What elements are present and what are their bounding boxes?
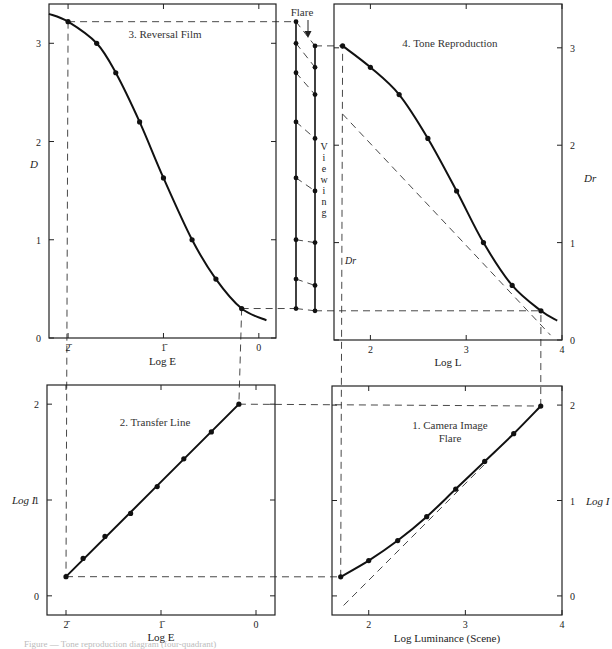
x-tick-label: 2 xyxy=(368,344,373,355)
viewing-letter: e xyxy=(322,163,327,174)
guide-logE-min xyxy=(66,22,68,577)
dr-inner-label: Dr xyxy=(344,255,356,266)
data-point xyxy=(482,459,487,464)
ladder-point-left xyxy=(294,41,299,46)
viewing-letter: V xyxy=(320,141,328,152)
y-tick-label: 2 xyxy=(570,140,575,151)
panel-transfer-line: 2̄1̄0012Log ELog I2. Transfer Line xyxy=(11,385,275,643)
data-point xyxy=(81,556,86,561)
y-axis-label: Log I xyxy=(11,494,37,506)
ladder-point-left xyxy=(294,277,299,282)
x-tick-label: 2 xyxy=(366,619,371,630)
guide-logL-min xyxy=(341,46,343,577)
ladder-rung xyxy=(296,240,315,243)
ladder-point-right xyxy=(313,308,318,313)
data-point xyxy=(161,175,166,180)
y-tick-label: 1 xyxy=(570,496,575,507)
data-point xyxy=(424,514,429,519)
panels: 2̄1̄00123Log ED3. Reversal Film2340123Lo… xyxy=(11,4,611,645)
data-point xyxy=(425,136,430,141)
x-tick-label: 2̄ xyxy=(66,342,73,353)
ladder-point-right xyxy=(313,240,318,245)
ladder-rung xyxy=(296,279,315,285)
data-point xyxy=(209,429,214,434)
ladder-point-right xyxy=(313,136,318,141)
ladder-point-left xyxy=(294,70,299,75)
ladder-point-left xyxy=(294,19,299,24)
y-tick-label: 1 xyxy=(36,235,41,246)
x-axis-label: Log L xyxy=(434,356,461,368)
viewing-letter: i xyxy=(323,185,326,196)
curve-line xyxy=(49,14,266,320)
data-point xyxy=(481,240,486,245)
data-point xyxy=(538,308,543,313)
data-point xyxy=(63,574,68,579)
ladder-point-left xyxy=(294,175,299,180)
panel-reversal-film: 2̄1̄00123Log ED3. Reversal Film xyxy=(29,4,276,367)
data-point xyxy=(102,534,107,539)
panel-frame xyxy=(334,4,562,340)
panel-title-line2: Flare xyxy=(439,432,462,444)
ladder-point-left xyxy=(294,306,299,311)
y-axis-label: D xyxy=(29,158,38,170)
data-point xyxy=(510,283,515,288)
panel-camera-image-flare: 234012Log Luminance (Scene)Log I1. Camer… xyxy=(332,386,611,645)
x-tick-label: 2̄ xyxy=(64,619,71,630)
panel-title: 1. Camera Image xyxy=(412,419,488,431)
y-axis-label: Log I xyxy=(585,495,611,507)
data-point xyxy=(155,484,160,489)
data-point xyxy=(239,306,244,311)
ladder-point-right xyxy=(313,283,318,288)
curve-line xyxy=(343,46,558,321)
data-point xyxy=(454,188,459,193)
ladder-point-right xyxy=(313,92,318,97)
data-point xyxy=(340,43,345,48)
ladder-rung xyxy=(296,43,315,67)
data-point xyxy=(137,119,142,124)
ladder-rung xyxy=(296,122,315,139)
x-tick-label: 1̄ xyxy=(161,342,168,353)
y-tick-label: 0 xyxy=(36,333,41,344)
data-point xyxy=(338,574,343,579)
data-point xyxy=(397,92,402,97)
data-point xyxy=(213,276,218,281)
guide-logE-max xyxy=(239,309,242,405)
figure-caption: Figure — Tone reproduction diagram (four… xyxy=(24,639,216,649)
data-point xyxy=(453,486,458,491)
data-point xyxy=(236,402,241,407)
y-axis-label: Dr xyxy=(583,172,597,184)
projection-guides xyxy=(66,22,541,577)
x-tick-label: 3 xyxy=(463,619,468,630)
ladder-point-right xyxy=(313,189,318,194)
data-point xyxy=(538,403,543,408)
x-tick-label: 4 xyxy=(560,344,565,355)
ladder-point-left xyxy=(294,119,299,124)
data-point xyxy=(113,70,118,75)
viewing-flare-ladder xyxy=(294,19,318,313)
tone-reproduction-diagram: 2̄1̄00123Log ED3. Reversal Film2340123Lo… xyxy=(0,0,612,649)
ladder-rung xyxy=(296,178,315,191)
viewing-letter: i xyxy=(323,152,326,163)
reference-line xyxy=(344,464,485,605)
y-tick-label: 2 xyxy=(36,137,41,148)
viewing-letter: w xyxy=(320,174,328,185)
x-tick-label: 1̄ xyxy=(159,619,166,630)
panel-title: 4. Tone Reproduction xyxy=(402,37,498,49)
reference-line xyxy=(343,114,551,335)
y-tick-label: 0 xyxy=(34,591,39,602)
x-tick-label: 0 xyxy=(256,342,261,353)
flare-label: Flare xyxy=(291,6,314,18)
ladder-point-right xyxy=(313,43,318,48)
panel-title: 2. Transfer Line xyxy=(120,416,191,428)
panel-tone-reproduction: 2340123Log LDr4. Tone Reproduction xyxy=(334,4,597,368)
data-point xyxy=(189,237,194,242)
data-point xyxy=(94,41,99,46)
x-axis-label: Log E xyxy=(149,355,176,367)
data-point xyxy=(511,431,516,436)
ladder-rung xyxy=(296,73,315,95)
x-axis-label: Log Luminance (Scene) xyxy=(394,632,501,645)
data-point xyxy=(366,558,371,563)
y-tick-label: 2 xyxy=(34,399,39,410)
data-point xyxy=(368,65,373,70)
y-tick-label: 2 xyxy=(570,400,575,411)
